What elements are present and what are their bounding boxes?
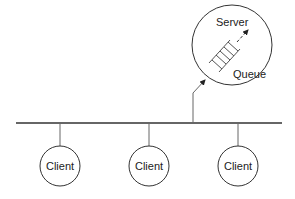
client-server-diagram: Server Queue Client Client Client xyxy=(0,0,295,199)
server-connection xyxy=(193,80,205,123)
client-label-3: Client xyxy=(224,160,252,172)
client-label-1: Client xyxy=(46,160,74,172)
server-node: Server Queue xyxy=(192,5,272,85)
server-label: Server xyxy=(216,16,249,28)
client-node-1: Client xyxy=(40,146,80,186)
client-node-2: Client xyxy=(129,146,169,186)
queue-output-arrow xyxy=(237,30,248,42)
client-label-2: Client xyxy=(135,160,163,172)
queue-label: Queue xyxy=(233,68,266,80)
client-node-3: Client xyxy=(218,146,258,186)
